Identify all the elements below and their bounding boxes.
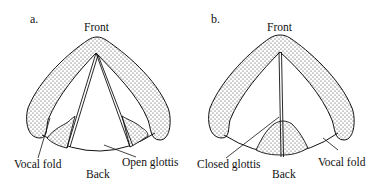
panel-b-arytenoids <box>256 121 308 155</box>
panel-a-right-arytenoid <box>122 116 148 147</box>
panel-a-front-label: Front <box>84 21 110 33</box>
panel-b-closed-glottis-label: Closed glottis <box>197 158 261 171</box>
panel-b-vocal-fold-label: Vocal fold <box>318 156 366 168</box>
panel-b-front-label: Front <box>267 21 293 33</box>
panel-b: b. Front Closed glottis Vocal fold Back <box>197 12 366 180</box>
panel-a-back-label: Back <box>86 168 110 180</box>
panel-b-vocal-fold-leader <box>323 138 338 150</box>
glottis-diagram: a. Front Vocal fold Open glottis Back b.… <box>0 0 380 186</box>
panel-b-back-label: Back <box>272 168 296 180</box>
panel-a-open-glottis-label: Open glottis <box>122 156 179 169</box>
panel-b-label: b. <box>211 12 220 26</box>
panel-a-label: a. <box>30 12 38 26</box>
panel-a: a. Front Vocal fold Open glottis Back <box>14 12 179 180</box>
panel-a-vocal-fold-label: Vocal fold <box>14 158 62 170</box>
